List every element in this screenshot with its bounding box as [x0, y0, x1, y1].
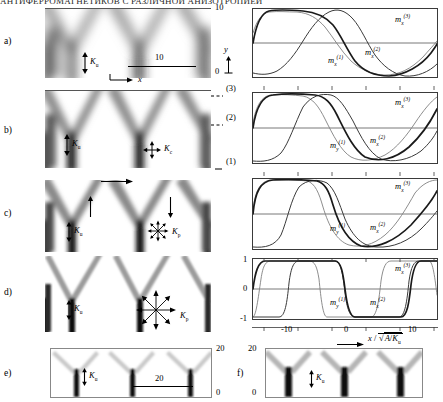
panel-e-image [50, 348, 212, 398]
panel-letter-c: c) [4, 208, 11, 218]
panel-e-axis-bottom: 0 [216, 387, 220, 397]
panel-a-scale-label: 10 [155, 52, 164, 62]
panel-letter-f: f) [237, 368, 243, 378]
plot-ytick-0: 0 [243, 283, 247, 293]
plot-panel-a [252, 8, 438, 78]
level-label-3: (3) [226, 83, 236, 93]
plot-xtick-0: 0 [344, 324, 348, 334]
panel-e-axis-top: 20 [216, 343, 225, 353]
plot-xlabel-arrow [337, 335, 365, 353]
panel-c-up-arrow [86, 196, 95, 222]
plot-xlabel: x / √A/Ku [368, 333, 403, 345]
panel-a-x-arrow [108, 72, 136, 90]
plot-xtick-10: 10 [408, 324, 417, 334]
level-marker-3 [211, 86, 225, 104]
panel-a-top-rule [45, 8, 211, 9]
left-axis-y-label: y [224, 44, 228, 54]
left-axis-top-label: 10 [215, 2, 224, 12]
panel-d-ku-arrow [64, 300, 74, 324]
plot-a-label-mx1: mx(1) [328, 54, 343, 67]
panel-f-ku-arrow [307, 370, 316, 392]
panel-c-ku-label: Ku [74, 225, 82, 237]
panel-f-image [265, 348, 423, 398]
panel-c-top-arrow [100, 172, 134, 190]
panel-letter-d: d) [4, 287, 12, 297]
panel-a-ku-label: Ku [90, 56, 98, 68]
plot-a-label-mx3: mx(3) [395, 13, 410, 26]
panel-e-ku-arrow [80, 368, 89, 390]
plot-ytick-1: 1 [243, 254, 247, 264]
level-label-1: (1) [226, 156, 236, 166]
plot-b-label-mx2: mx(2) [370, 134, 385, 147]
plot-panel-b [252, 92, 438, 164]
panel-c-kp-star-icon [146, 219, 170, 247]
left-axis-bottom-label: 0 [215, 66, 219, 76]
panel-b-kc-cross-icon [142, 140, 162, 164]
panel-f-axis-top: 20 [248, 343, 257, 353]
left-axis-y-arrow [224, 56, 233, 78]
plot-d-label-my1: my(1) [330, 296, 345, 309]
panel-e-scalebar [133, 386, 193, 387]
panel-d-kp-star-icon [134, 288, 178, 336]
panel-letter-b: b) [4, 125, 12, 135]
plot-b-xticks [252, 164, 438, 182]
panel-b-top-rule [45, 90, 211, 91]
panel-b-ku-label: Ku [72, 138, 80, 150]
plot-d-label-mx2: mx(2) [370, 296, 385, 309]
panel-a-scalebar [128, 66, 196, 67]
panel-a-x-label: x [138, 74, 142, 84]
panel-a-ku-arrow [80, 52, 90, 78]
panel-e-ku-label: Ku [89, 370, 97, 382]
plot-c-label-mx2: mx(2) [370, 221, 385, 234]
level-label-2: (2) [226, 112, 236, 122]
level-marker-1 [215, 159, 225, 177]
plot-ytick-minus1: -1 [240, 313, 247, 323]
plot-b-label-my1: my(1) [330, 139, 345, 152]
panel-c-kp-label: Kp [172, 226, 180, 238]
panel-e-scale-label: 20 [155, 373, 164, 383]
panel-d-kp-label: Kp [180, 310, 188, 322]
plot-a-xticks [252, 78, 438, 96]
plot-c-label-my1: my(1) [330, 222, 345, 235]
plot-a-label-mx2: mx(2) [365, 46, 380, 59]
plot-panel-c [252, 178, 438, 250]
panel-d-ku-label: Ku [74, 303, 82, 315]
panel-letter-e: e) [4, 368, 11, 378]
figure-root: АНТИФЕРРОМАГНЕТИКОВ С РАЗЛИЧНОЙ АНИЗОТРО… [0, 0, 443, 402]
panel-c-ku-arrow [64, 222, 74, 246]
plot-c-xticks [252, 250, 438, 268]
plot-b-label-mx3: mx(3) [395, 96, 410, 109]
plot-xtick-minus10: -10 [281, 324, 292, 334]
panel-b-kc-label: Kc [164, 143, 172, 155]
panel-f-axis-bottom: 0 [252, 387, 256, 397]
panel-a-image [45, 8, 211, 78]
panel-letter-a: a) [4, 36, 11, 46]
level-marker-2 [211, 115, 225, 133]
panel-b-ku-arrow [62, 134, 72, 160]
panel-f-ku-label: Ku [316, 372, 324, 384]
